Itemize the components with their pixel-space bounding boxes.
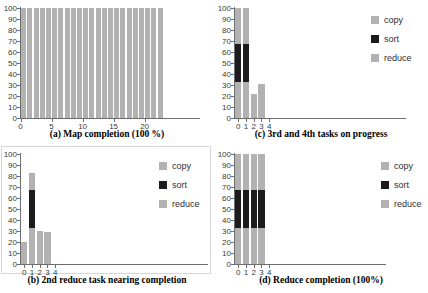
chart-caption-b: (b) 2nd reduce task nearing completion xyxy=(0,275,214,285)
y-tick xyxy=(17,264,20,265)
x-axis-line xyxy=(234,118,406,119)
y-tick xyxy=(231,41,234,42)
y-tick-label: 40 xyxy=(215,216,231,225)
bar-3-segment-reduce xyxy=(258,154,264,190)
y-tick-label: 10 xyxy=(215,103,231,112)
bar-17-segment-map xyxy=(127,8,132,118)
chart-c: 010203040506070809010001234copysortreduc… xyxy=(214,0,428,146)
bar-2-segment-copy xyxy=(37,231,43,264)
y-tick-label: 30 xyxy=(1,227,17,236)
y-tick-label: 50 xyxy=(215,59,231,68)
y-tick xyxy=(17,63,20,64)
bar-1-segment-sort xyxy=(29,190,35,227)
y-tick xyxy=(231,19,234,20)
y-tick-label: 0 xyxy=(1,260,17,269)
y-tick xyxy=(231,198,234,199)
y-tick xyxy=(231,74,234,75)
y-tick-label: 50 xyxy=(1,59,17,68)
y-tick xyxy=(17,8,20,9)
bar-5-segment-map xyxy=(52,8,57,118)
y-tick xyxy=(231,96,234,97)
bar-1-segment-reduce xyxy=(243,154,249,190)
bar-21-segment-map xyxy=(151,8,156,118)
legend-swatch-reduce-icon xyxy=(381,200,389,208)
bar-6-segment-map xyxy=(58,8,63,118)
bar-10-segment-map xyxy=(83,8,88,118)
y-tick-label: 80 xyxy=(1,172,17,181)
y-tick-label: 60 xyxy=(1,194,17,203)
legend-swatch-copy-icon xyxy=(381,162,389,170)
legend-swatch-sort-icon xyxy=(159,181,167,189)
bar-3-segment-copy xyxy=(258,228,264,264)
y-tick-label: 70 xyxy=(215,37,231,46)
bar-1-segment-reduce xyxy=(29,173,35,191)
y-tick-label: 60 xyxy=(1,48,17,57)
bar-1-segment-copy xyxy=(243,228,249,264)
y-tick xyxy=(231,220,234,221)
y-tick xyxy=(231,30,234,31)
y-tick xyxy=(17,107,20,108)
legend-swatch-reduce-icon xyxy=(371,54,379,62)
y-tick xyxy=(231,8,234,9)
bar-3-segment-map xyxy=(40,8,45,118)
bar-3-segment-sort xyxy=(258,190,264,227)
y-tick xyxy=(17,165,20,166)
y-tick xyxy=(17,118,20,119)
bar-0-segment-map xyxy=(21,8,26,118)
bar-0-segment-reduce xyxy=(235,154,241,190)
bar-14-segment-map xyxy=(108,8,113,118)
y-tick-label: 20 xyxy=(1,92,17,101)
y-tick xyxy=(231,264,234,265)
bar-11-segment-map xyxy=(89,8,94,118)
y-tick xyxy=(231,52,234,53)
y-tick-label: 70 xyxy=(1,183,17,192)
bar-7-segment-map xyxy=(65,8,70,118)
bar-1-segment-sort xyxy=(243,44,249,81)
bar-16-segment-map xyxy=(120,8,125,118)
bar-15-segment-map xyxy=(114,8,119,118)
bar-8-segment-map xyxy=(71,8,76,118)
bar-20-segment-map xyxy=(145,8,150,118)
bar-2-segment-copy xyxy=(251,228,257,264)
x-axis-line xyxy=(234,264,386,265)
legend-label-copy: copy xyxy=(384,15,403,25)
chart-caption-c: (c) 3rd and 4th tasks on progress xyxy=(214,129,428,139)
legend-label-sort: sort xyxy=(384,34,399,44)
y-tick xyxy=(231,63,234,64)
mapreduce-progress-figure: 010203040506070809010005101520(a) Map co… xyxy=(0,0,428,293)
legend-label-reduce: reduce xyxy=(384,53,412,63)
y-tick xyxy=(17,220,20,221)
y-tick xyxy=(17,52,20,53)
y-tick xyxy=(17,30,20,31)
bar-2-segment-reduce xyxy=(251,154,257,190)
y-tick xyxy=(17,176,20,177)
y-tick xyxy=(231,165,234,166)
legend-label-reduce: reduce xyxy=(394,199,422,209)
y-tick-label: 20 xyxy=(215,92,231,101)
bar-1-segment-copy xyxy=(29,228,35,264)
y-tick-label: 80 xyxy=(1,26,17,35)
y-tick xyxy=(17,85,20,86)
y-tick-label: 80 xyxy=(215,172,231,181)
legend-swatch-copy-icon xyxy=(371,16,379,24)
y-tick xyxy=(231,187,234,188)
y-tick-label: 80 xyxy=(215,26,231,35)
y-tick-label: 20 xyxy=(1,238,17,247)
chart-caption-a: (a) Map completion (100 %) xyxy=(0,129,214,139)
y-tick xyxy=(231,154,234,155)
y-tick-label: 90 xyxy=(1,15,17,24)
y-tick-label: 100 xyxy=(1,4,17,13)
y-tick-label: 40 xyxy=(1,70,17,79)
bar-1-segment-sort xyxy=(243,190,249,227)
y-tick-label: 90 xyxy=(215,15,231,24)
y-tick-label: 10 xyxy=(1,249,17,258)
y-tick xyxy=(17,96,20,97)
y-tick xyxy=(231,85,234,86)
bar-13-segment-map xyxy=(102,8,107,118)
y-tick xyxy=(231,118,234,119)
bar-3-segment-copy xyxy=(258,84,264,118)
x-axis-line xyxy=(20,118,200,119)
y-tick-label: 10 xyxy=(1,103,17,112)
legend-label-copy: copy xyxy=(394,161,413,171)
y-tick-label: 30 xyxy=(215,81,231,90)
